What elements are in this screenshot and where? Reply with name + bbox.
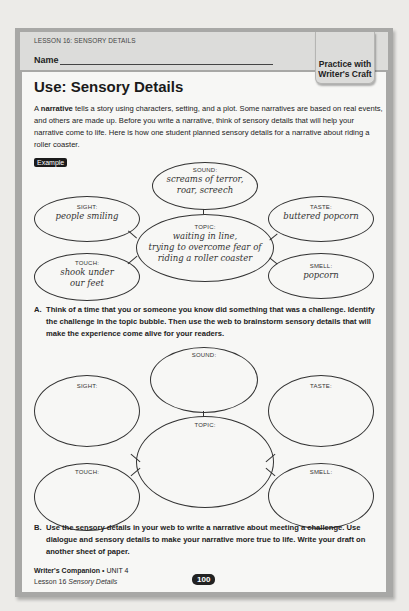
part-b-instruction: B. Use the sensory details in your web t…: [34, 522, 384, 558]
touch-label: TOUCH:: [35, 469, 139, 475]
part-b-text: Use the sensory details in your web to w…: [46, 522, 384, 558]
footer-book: Writer's Companion • UNIT 4: [34, 567, 129, 574]
sight-label: SIGHT:: [35, 383, 139, 389]
lesson-title: Sensory Details: [68, 578, 117, 585]
smell-label: SMELL:: [269, 469, 373, 475]
topic-label: TOPIC:: [137, 422, 273, 428]
topic-bubble[interactable]: TOPIC:: [136, 416, 274, 508]
sound-bubble[interactable]: SOUND:: [150, 347, 258, 413]
unit-label: UNIT 4: [106, 567, 128, 574]
smell-bubble[interactable]: SMELL:: [268, 463, 374, 529]
blank-web: SOUND: SIGHT: TASTE: TOPIC: TOUCH: SMELL…: [0, 0, 409, 611]
taste-bubble[interactable]: TASTE:: [268, 375, 374, 447]
lesson-prefix: Lesson 16: [34, 578, 68, 585]
part-b-letter: B.: [34, 522, 42, 534]
footer-lesson: Lesson 16 Sensory Details: [34, 578, 117, 585]
taste-label: TASTE:: [269, 383, 373, 389]
book-title: Writer's Companion: [34, 567, 100, 574]
touch-bubble[interactable]: TOUCH:: [34, 463, 140, 531]
sight-bubble[interactable]: SIGHT:: [34, 375, 140, 447]
sound-label: SOUND:: [151, 352, 257, 358]
page-number: 100: [192, 574, 215, 585]
